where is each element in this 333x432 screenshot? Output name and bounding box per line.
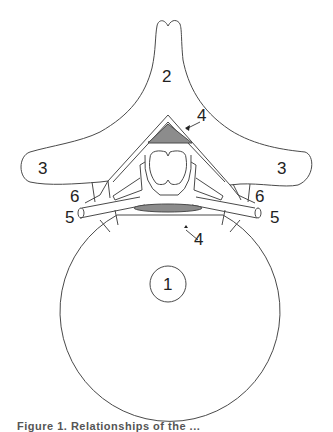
vertebral-body — [60, 215, 280, 421]
spinous-process-outline — [168, 21, 312, 186]
label-shaded-anterior: 4 — [194, 230, 203, 249]
label-spinous-process: 2 — [162, 67, 171, 86]
shaded-region-posterior — [148, 124, 192, 143]
label-nerve-right: 5 — [270, 208, 279, 227]
label-facet-left: 6 — [70, 187, 79, 206]
label-transverse-left: 3 — [38, 159, 47, 178]
label-facet-right: 6 — [255, 187, 264, 206]
shaded-region-anterior — [134, 204, 202, 212]
label-nerve-left: 5 — [65, 208, 74, 227]
spinal-cord — [149, 151, 186, 185]
figure-caption: Figure 1. Relationships of the ... — [17, 420, 200, 432]
label-vertebral-body: 1 — [163, 275, 172, 294]
label-shaded-posterior: 4 — [197, 106, 206, 125]
label-transverse-right: 3 — [277, 159, 286, 178]
